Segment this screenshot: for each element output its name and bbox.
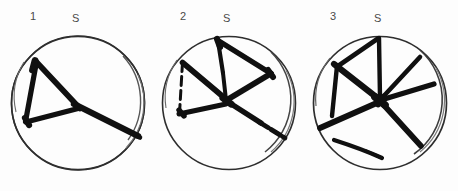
mark-panel-1: 1 S xyxy=(2,0,154,191)
incised-mark-1 xyxy=(25,61,140,138)
incised-mark-3 xyxy=(320,38,434,159)
panel-3-drawing xyxy=(304,0,456,191)
panel-1-drawing xyxy=(2,0,154,191)
incised-mark-2 xyxy=(179,39,285,138)
mark-panel-2: 2 S xyxy=(153,0,305,191)
figure-root: 1 S 2 S xyxy=(0,0,458,191)
mark-panel-3: 3 S xyxy=(304,0,456,191)
panel-2-drawing xyxy=(153,0,305,191)
